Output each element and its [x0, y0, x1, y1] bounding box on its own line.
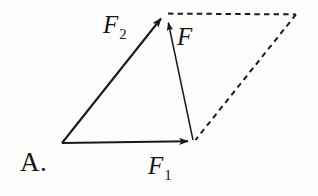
vector-diagram-figure: A. F2 F1 F	[0, 0, 318, 196]
vector-f1-label: F1	[148, 153, 171, 178]
vector-f1-label-base: F	[148, 152, 163, 179]
construction-line-top-dashed	[168, 14, 296, 15]
vector-f-resultant-label: F	[177, 24, 192, 49]
choice-letter-label: A.	[20, 149, 47, 176]
vector-f2-label-base: F	[103, 11, 118, 38]
construction-line-right-dashed	[196, 14, 297, 140]
vector-f1-label-subscript: 1	[164, 167, 172, 183]
vector-f2-label-subscript: 2	[119, 26, 127, 42]
vector-f2-label: F2	[103, 12, 126, 37]
vector-f1-line	[62, 141, 188, 143]
